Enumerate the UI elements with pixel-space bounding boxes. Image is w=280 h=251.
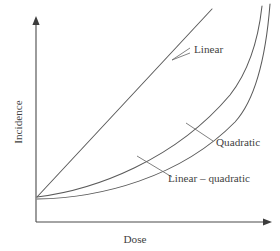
x-axis-title: Dose <box>124 233 147 245</box>
label-linear: Linear <box>194 43 223 55</box>
x-axis-arrow-icon <box>263 218 272 225</box>
label-quadratic: Quadratic <box>216 136 260 148</box>
curve-linear-quadratic <box>37 4 270 199</box>
curve-linear <box>37 9 212 197</box>
label-linear-quadratic: Linear – quadratic <box>168 172 250 184</box>
dose-response-chart: Linear Quadratic Linear – quadratic Dose… <box>0 0 280 251</box>
leader-line-linear-quadratic <box>137 156 172 177</box>
y-axis-arrow-icon <box>32 16 39 25</box>
curve-quadratic <box>37 6 262 197</box>
y-axis-title: Incidence <box>12 100 24 144</box>
dose-response-figure: Linear Quadratic Linear – quadratic Dose… <box>0 0 280 251</box>
